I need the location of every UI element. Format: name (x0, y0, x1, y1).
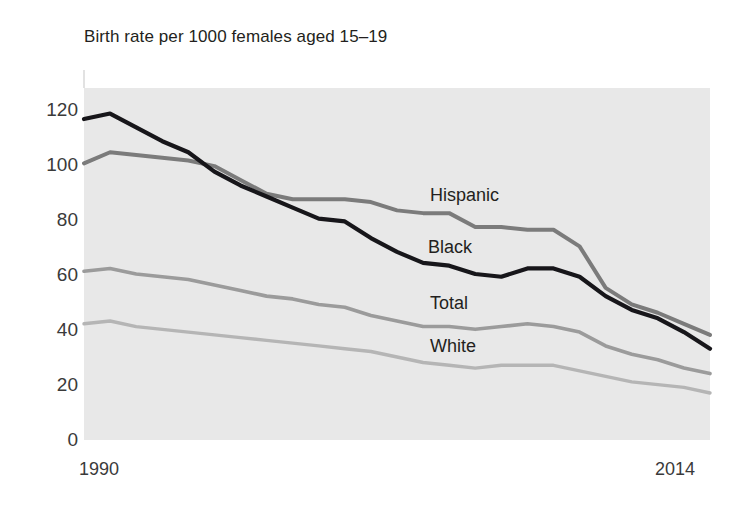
y-tick-label-100: 100 (8, 155, 78, 174)
plot-area (0, 0, 742, 510)
y-tick-label-20: 20 (8, 375, 78, 394)
chart-figure: Birth rate per 1000 females aged 15–19 1… (0, 0, 742, 510)
x-tick-label-1990: 1990 (79, 460, 119, 478)
y-tick-label-60: 60 (8, 265, 78, 284)
series-label-white: White (430, 337, 476, 355)
series-label-black: Black (428, 238, 472, 256)
y-tick-label-120: 120 (8, 100, 78, 119)
x-tick-label-2014: 2014 (655, 460, 695, 478)
y-tick-label-80: 80 (8, 210, 78, 229)
line-chart-svg (0, 0, 742, 510)
series-label-hispanic: Hispanic (430, 186, 499, 204)
series-label-total: Total (430, 294, 468, 312)
y-tick-label-0: 0 (8, 430, 78, 449)
y-tick-label-40: 40 (8, 320, 78, 339)
